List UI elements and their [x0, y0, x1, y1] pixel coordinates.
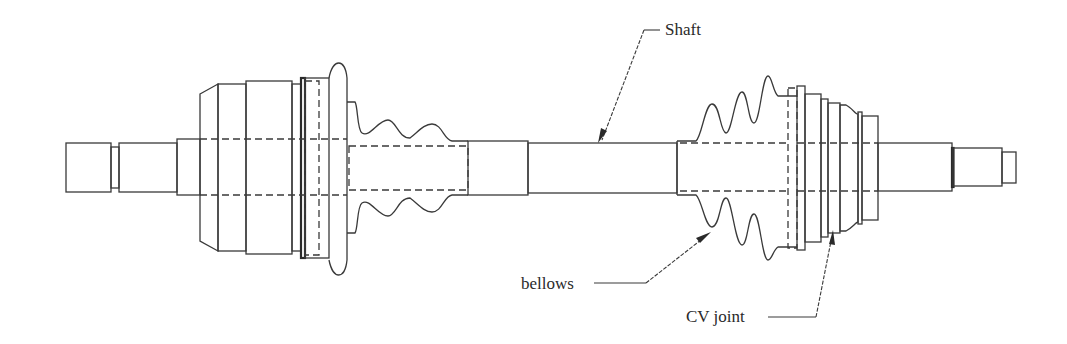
- bellows-label: bellows: [521, 275, 574, 292]
- bellows-leader: [594, 232, 711, 283]
- shaft-label: Shaft: [665, 21, 701, 38]
- left-cv-joint-housing: [200, 63, 347, 275]
- cv-joint-label: CV joint: [686, 308, 745, 325]
- right-bellows: [677, 76, 797, 260]
- cv-joint-leader: [768, 230, 835, 317]
- left-bellows: [347, 102, 468, 233]
- right-stub-end: [878, 143, 1016, 191]
- shaft: [468, 141, 677, 195]
- shaft-leader: [598, 30, 660, 143]
- right-cv-joint-housing: [788, 86, 878, 250]
- left-stub-end: [66, 139, 200, 195]
